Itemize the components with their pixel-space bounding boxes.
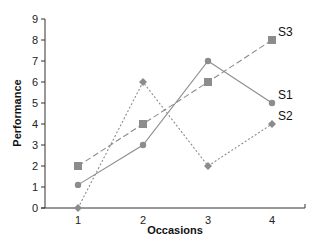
square-marker — [139, 120, 147, 128]
series-label: S3 — [278, 25, 293, 39]
y-tick-label: 2 — [32, 160, 38, 172]
y-tick-label: 1 — [32, 181, 38, 193]
y-tick-label: 8 — [32, 34, 38, 46]
y-tick-label: 9 — [32, 13, 38, 25]
series-group: S1S2S3 — [74, 25, 293, 212]
y-tick-label: 5 — [32, 97, 38, 109]
series-line — [78, 82, 272, 208]
y-axis-label: Performance — [11, 79, 23, 146]
y-tick-label: 6 — [32, 76, 38, 88]
axis-labels: Occasions Performance — [11, 79, 203, 236]
x-tick-label: 4 — [269, 214, 275, 226]
x-tick-label: 3 — [205, 214, 211, 226]
y-tick-label: 7 — [32, 55, 38, 67]
diamond-marker — [268, 120, 276, 128]
y-tick-label: 3 — [32, 139, 38, 151]
diamond-marker — [74, 204, 82, 212]
circle-marker — [140, 142, 146, 148]
series-label: S2 — [278, 109, 293, 123]
square-marker — [268, 36, 276, 44]
circle-marker — [269, 100, 275, 106]
square-marker — [204, 78, 212, 86]
x-tick-label: 2 — [140, 214, 146, 226]
x-tick-label: 1 — [75, 214, 81, 226]
series-s3: S3 — [74, 25, 293, 170]
series-s1: S1 — [75, 58, 293, 188]
x-axis-label: Occasions — [147, 224, 203, 236]
y-tick-label: 0 — [32, 202, 38, 214]
line-chart: 01234567891234 S1S2S3 Occasions Performa… — [0, 0, 319, 246]
y-tick-label: 4 — [32, 118, 38, 130]
circle-marker — [205, 58, 211, 64]
series-label: S1 — [278, 88, 293, 102]
series-s2: S2 — [74, 78, 293, 212]
circle-marker — [75, 182, 81, 188]
square-marker — [74, 162, 82, 170]
